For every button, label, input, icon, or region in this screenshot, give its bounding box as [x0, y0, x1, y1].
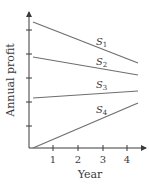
series-label-s3: S3: [96, 79, 107, 92]
series-label-s2: S2: [96, 56, 107, 69]
y-axis-label: Annual profit: [4, 43, 17, 118]
series-label-s4: S4: [96, 104, 108, 117]
series-line-s2: [33, 57, 138, 75]
x-tick-label: 2: [75, 154, 81, 165]
x-axis-label: Year: [77, 168, 103, 181]
x-tick-label: 3: [100, 154, 106, 165]
series-line-s1: [33, 22, 138, 63]
x-tick-label: 4: [124, 154, 130, 165]
x-tick-label: 1: [50, 154, 56, 165]
axes: [29, 12, 146, 148]
series-line-s3: [33, 91, 138, 98]
series-line-s4: [33, 103, 138, 148]
series-lines: S1S2S3S4: [33, 22, 138, 148]
annual-profit-chart: 1234 S1S2S3S4 Year Annual profit: [0, 0, 149, 193]
